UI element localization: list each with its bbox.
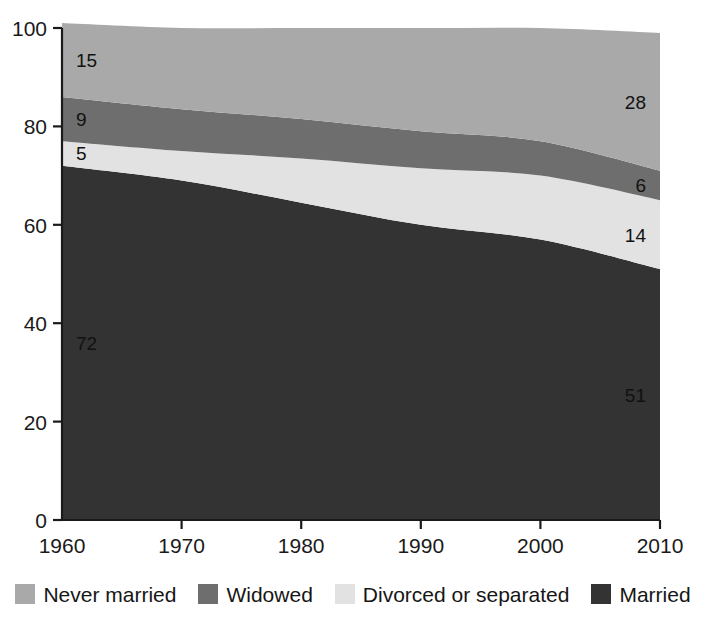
y-tick-label: 100	[12, 17, 47, 40]
legend-item-divorced-or-separated[interactable]: Divorced or separated	[335, 584, 570, 605]
area-value-label: 28	[625, 92, 646, 113]
y-tick-label: 80	[24, 115, 47, 138]
legend-label: Married	[619, 584, 690, 605]
area-value-label: 51	[625, 385, 646, 406]
x-tick-label: 1960	[39, 534, 86, 557]
legend-swatch-icon	[591, 584, 611, 604]
legend-label: Never married	[43, 584, 176, 605]
y-tick-label: 20	[24, 411, 47, 434]
stacked-area-chart: 020406080100196019701980199020002010 725…	[0, 0, 706, 620]
y-tick-label: 0	[35, 509, 47, 532]
legend-label: Divorced or separated	[363, 584, 570, 605]
x-tick-label: 1980	[278, 534, 325, 557]
area-value-label: 6	[635, 175, 646, 196]
legend-item-married[interactable]: Married	[591, 584, 690, 605]
y-tick-label: 60	[24, 214, 47, 237]
area-bands-group	[62, 23, 660, 520]
x-tick-label: 2000	[517, 534, 564, 557]
x-tick-label: 1970	[158, 534, 205, 557]
legend-swatch-icon	[198, 584, 218, 604]
area-value-label: 72	[76, 333, 97, 354]
area-value-label: 14	[625, 225, 647, 246]
area-value-label: 15	[76, 50, 97, 71]
legend-swatch-icon	[15, 584, 35, 604]
legend-item-widowed[interactable]: Widowed	[198, 584, 312, 605]
x-tick-label: 1990	[397, 534, 444, 557]
chart-legend: Never marriedWidowedDivorced or separate…	[0, 577, 706, 611]
legend-label: Widowed	[226, 584, 312, 605]
area-value-label: 5	[76, 143, 87, 164]
chart-canvas: 020406080100196019701980199020002010 725…	[0, 0, 706, 620]
legend-item-never-married[interactable]: Never married	[15, 584, 176, 605]
y-tick-label: 40	[24, 312, 47, 335]
legend-swatch-icon	[335, 584, 355, 604]
x-tick-label: 2010	[637, 534, 684, 557]
area-value-label: 9	[76, 109, 87, 130]
